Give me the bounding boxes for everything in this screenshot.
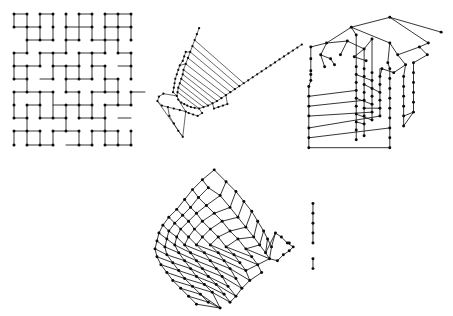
- graph-node: [198, 107, 200, 109]
- graph-node: [117, 39, 120, 42]
- graph-node: [52, 39, 55, 42]
- graph-layout-figure: [0, 0, 453, 316]
- graph-node: [388, 107, 391, 110]
- graph-node: [311, 222, 314, 225]
- graph-node: [196, 33, 198, 35]
- graph-node: [173, 107, 175, 109]
- graph-node: [371, 95, 374, 98]
- graph-edge: [236, 192, 244, 202]
- graph-node: [234, 277, 237, 280]
- graph-node: [217, 106, 219, 108]
- graph-node: [229, 91, 231, 93]
- graph-edge: [309, 90, 356, 96]
- graph-node: [13, 130, 16, 133]
- graph-node: [78, 78, 81, 81]
- graph-edge: [321, 43, 327, 55]
- graph-node: [130, 78, 133, 81]
- graph-node: [183, 103, 185, 105]
- graph-node: [189, 251, 192, 254]
- graph-node: [191, 45, 193, 47]
- graph-edge: [190, 52, 235, 89]
- graph-node: [350, 26, 353, 29]
- graph-node: [183, 243, 186, 246]
- graph-node: [371, 87, 374, 90]
- graph-node: [363, 75, 366, 78]
- graph-node: [39, 144, 42, 147]
- graph-edge: [204, 284, 224, 294]
- graph-node: [355, 73, 358, 76]
- graph-node: [13, 144, 16, 147]
- graph-node: [65, 26, 68, 29]
- graph-node: [363, 107, 366, 110]
- graph-edge: [388, 43, 390, 63]
- graph-node: [26, 39, 29, 42]
- graph-node: [173, 243, 176, 246]
- graph-node: [274, 61, 276, 63]
- graph-node: [201, 267, 204, 270]
- graph-node: [278, 58, 280, 60]
- graph-node: [201, 220, 204, 223]
- graph-node: [265, 67, 267, 69]
- graph-node: [261, 70, 263, 72]
- graph-node: [205, 204, 208, 207]
- graph-edge: [246, 265, 258, 271]
- graph-node: [307, 95, 310, 98]
- graph-edge: [174, 123, 178, 130]
- graph-node: [264, 251, 267, 254]
- graph-node: [268, 257, 271, 260]
- graph-node: [130, 144, 133, 147]
- graph-edge: [189, 229, 195, 237]
- graph-node: [117, 13, 120, 16]
- graph-node: [182, 73, 184, 75]
- graph-node: [307, 126, 310, 129]
- graph-node: [244, 247, 247, 250]
- graph-node: [179, 82, 181, 84]
- graph-edge: [226, 182, 236, 192]
- graph-node: [280, 236, 283, 239]
- graph-edge: [210, 237, 218, 245]
- graph-node: [238, 261, 241, 264]
- graph-edge: [260, 231, 264, 245]
- graph-node: [307, 105, 310, 108]
- graph-node: [194, 39, 196, 41]
- graph-node: [165, 271, 168, 274]
- graph-node: [91, 52, 94, 55]
- graph-node: [13, 65, 16, 68]
- graph-edge: [183, 207, 191, 215]
- graph-edge: [194, 229, 202, 237]
- graph-node: [13, 13, 16, 16]
- graph-node: [117, 91, 120, 94]
- graph-node: [39, 65, 42, 68]
- graph-node: [185, 110, 187, 112]
- graph-node: [104, 65, 107, 68]
- graph-node: [104, 91, 107, 94]
- graph-edge: [169, 116, 173, 123]
- graph-node: [130, 52, 133, 55]
- graph-node: [283, 55, 285, 57]
- graph-edge: [177, 237, 185, 245]
- graph-edge: [216, 284, 236, 296]
- graph-node: [157, 232, 160, 235]
- graph-node: [154, 247, 157, 250]
- graph-node: [130, 39, 133, 42]
- graph-node: [213, 212, 216, 215]
- graph-node: [104, 52, 107, 55]
- graph-node: [26, 144, 29, 147]
- graph-node: [247, 79, 249, 81]
- graph-node: [104, 78, 107, 81]
- graph-node: [91, 65, 94, 68]
- graph-node: [244, 226, 247, 229]
- graph-node: [319, 53, 322, 56]
- graph-edge: [155, 249, 167, 255]
- graph-edge: [159, 233, 167, 239]
- graph-edge: [202, 170, 214, 180]
- graph-node: [179, 109, 181, 111]
- graph-edge: [222, 221, 230, 231]
- graph-node: [78, 52, 81, 55]
- graph-node: [91, 117, 94, 120]
- graph-edge: [309, 116, 380, 128]
- graph-node: [13, 104, 16, 107]
- graph-node: [243, 82, 245, 84]
- graph-node: [65, 91, 68, 94]
- graph-edge: [169, 223, 175, 231]
